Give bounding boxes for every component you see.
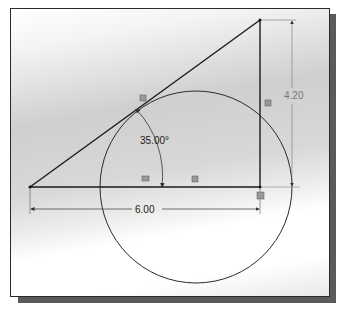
sketch-canvas: 35.00° 6.00 4.20: [0, 0, 343, 309]
hypotenuse-line[interactable]: [30, 20, 260, 187]
vertical-relation-icon[interactable]: [265, 100, 271, 106]
coincident-relation-icon[interactable]: [257, 192, 264, 199]
horizontal-dimension-label[interactable]: 6.00: [135, 204, 155, 215]
midpoint-relation-icon[interactable]: [192, 176, 198, 182]
vertex-point[interactable]: [259, 19, 262, 22]
angle-dimension-arc[interactable]: [136, 109, 163, 187]
vertical-dimension-label[interactable]: 4.20: [284, 90, 304, 101]
tangent-relation-icon[interactable]: [140, 95, 146, 101]
vertex-point[interactable]: [259, 186, 262, 189]
horizontal-relation-icon[interactable]: [142, 176, 149, 181]
angle-dimension-label[interactable]: 35.00°: [140, 135, 169, 146]
vertex-point[interactable]: [29, 186, 32, 189]
